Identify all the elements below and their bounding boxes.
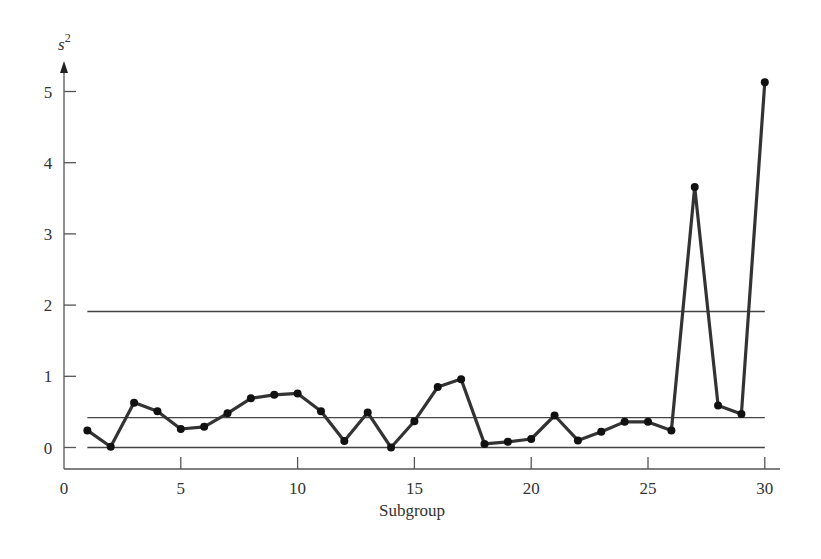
data-point [714,401,722,409]
data-point [737,410,745,418]
y-axis: 012345 [44,72,76,469]
y-tick-label: 3 [44,225,53,244]
data-point [317,407,325,415]
x-tick-label: 15 [406,479,423,498]
data-point [83,426,91,434]
x-axis: 051015202530 [60,457,780,498]
data-point [574,436,582,444]
x-tick-label: 30 [756,479,773,498]
x-tick-label: 20 [523,479,540,498]
data-point [621,418,629,426]
data-point [504,438,512,446]
data-point [107,443,115,451]
data-point [364,409,372,417]
y-tick-label: 4 [44,154,53,173]
data-point [294,389,302,397]
data-point [667,426,675,434]
data-point [644,418,652,426]
data-point [200,423,208,431]
data-point [247,394,255,402]
y-tick-label: 1 [44,367,53,386]
x-axis-title: Subgroup [379,501,445,520]
data-point [551,411,559,419]
data-point [434,383,442,391]
y-axis-title: s2 [58,31,71,54]
x-tick-label: 0 [60,479,69,498]
data-point [270,391,278,399]
data-point [410,417,418,425]
series-line [87,82,764,447]
data-point [597,428,605,436]
data-point [340,437,348,445]
x-tick-label: 5 [177,479,186,498]
data-point [457,375,465,383]
data-series [83,78,768,451]
data-point [177,425,185,433]
data-point [480,440,488,448]
data-point [387,444,395,452]
data-point [224,409,232,417]
y-tick-label: 0 [44,439,53,458]
y-tick-label: 2 [44,296,53,315]
data-point [691,183,699,191]
data-point [130,399,138,407]
data-point [153,407,161,415]
data-point [761,78,769,86]
data-point [527,435,535,443]
x-tick-label: 25 [640,479,657,498]
x-tick-label: 10 [289,479,306,498]
control-chart: 012345 051015202530 s2 Subgroup [0,0,821,559]
y-tick-label: 5 [44,83,53,102]
